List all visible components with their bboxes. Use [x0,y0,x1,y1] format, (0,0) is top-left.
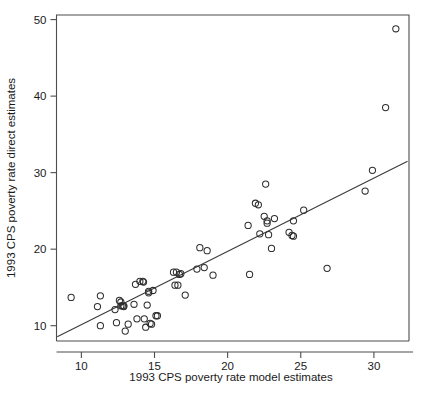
data-point [301,207,307,213]
data-point [131,301,137,307]
data-point [97,293,103,299]
y-tick-label: 40 [34,90,47,102]
data-point [382,104,388,110]
data-point [263,181,269,187]
data-point [113,320,119,326]
x-axis-ticks: 1015202530 [75,352,380,372]
data-point [271,215,277,221]
plot-canvas: 1020304050 1015202530 1993 CPS poverty r… [0,0,423,393]
data-point [362,188,368,194]
y-tick-label: 50 [34,14,47,26]
data-point [122,328,128,334]
data-point [197,245,203,251]
y-tick-label: 10 [34,320,47,332]
data-point [134,316,140,322]
x-axis-title: 1993 CPS poverty rate model estimates [129,371,333,383]
data-point [68,294,74,300]
data-point [201,264,207,270]
y-axis-ticks: 1020304050 [34,14,57,332]
data-point [144,302,150,308]
x-tick-label: 30 [367,360,380,372]
y-tick-label: 30 [34,167,47,179]
data-point [210,272,216,278]
data-point [268,245,274,251]
data-point [265,232,271,238]
data-point [141,316,147,322]
data-point [94,303,100,309]
data-point [132,281,138,287]
data-point [245,222,251,228]
data-points [68,26,399,335]
x-tick-label: 10 [75,360,88,372]
data-point [393,26,399,32]
y-axis-title: 1993 CPS poverty rate direct estimates [5,78,17,278]
axes-frame [57,15,414,352]
data-point [182,292,188,298]
y-tick-label: 20 [34,243,47,255]
data-point [261,213,267,219]
data-point [246,271,252,277]
scatter-plot-figure: 1020304050 1015202530 1993 CPS poverty r… [0,0,423,393]
data-point [369,167,375,173]
data-point [324,265,330,271]
data-point [97,323,103,329]
data-point [204,248,210,254]
data-point [125,321,131,327]
regression-reference-line [57,161,407,337]
